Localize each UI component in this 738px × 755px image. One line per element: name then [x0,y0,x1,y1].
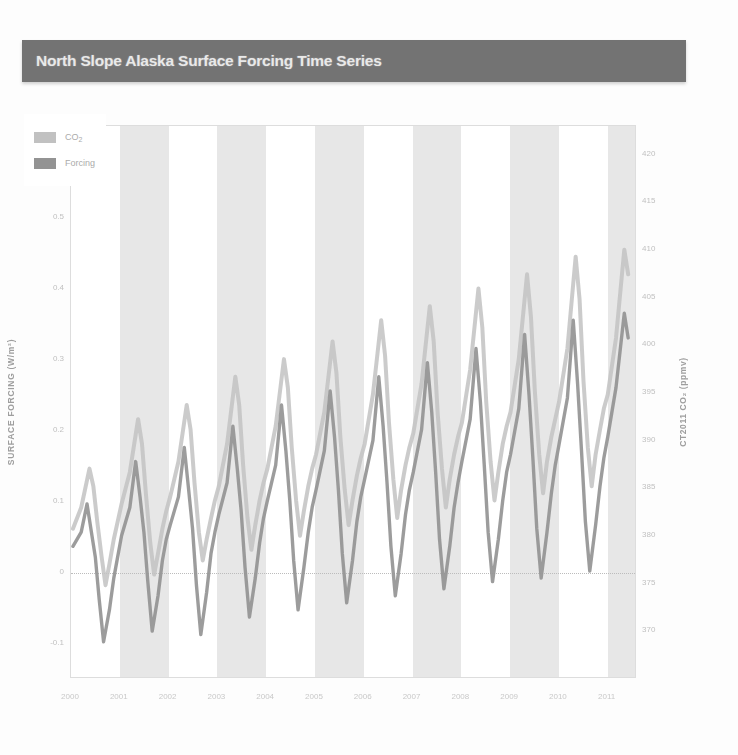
x-tick-label: 2005 [305,692,323,701]
x-tick-label: 2002 [159,692,177,701]
x-tick-label: 2001 [110,692,128,701]
figure-page: North Slope Alaska Surface Forcing Time … [0,0,738,755]
y-tick-label-right: 390 [642,435,655,444]
y-tick-label-left: 0.1 [53,496,64,505]
legend-item-forcing: Forcing [34,150,98,176]
y-tick-label-left: 0.2 [53,425,64,434]
legend-label-co2: CO2 [65,132,82,143]
x-tick-label: 2011 [598,692,615,701]
series-line [73,250,628,586]
x-axis-ticks: 2000200120022003200420052006200720082009… [70,692,636,708]
legend-swatch-forcing [34,158,56,169]
y-tick-label-left: 0 [60,567,64,576]
y-tick-label-right: 405 [642,292,655,301]
legend-label-forcing: Forcing [65,158,95,168]
y-axis-right-ticks: 420415410405400395390385380375370 [642,125,676,678]
x-tick-label: 2010 [549,692,567,701]
series-curves [71,126,635,677]
y-tick-label-right: 385 [642,482,655,491]
y-axis-right-title: CT2011 CO₂ (ppmv) [676,125,690,678]
x-tick-label: 2004 [256,692,274,701]
x-tick-label: 2006 [354,692,372,701]
plot-area [70,125,636,678]
x-tick-label: 2000 [61,692,79,701]
y-tick-label-left: 0.4 [53,283,64,292]
title-banner: North Slope Alaska Surface Forcing Time … [22,40,686,82]
y-tick-label-left: -0.1 [50,638,64,647]
y-tick-label-right: 370 [642,625,655,634]
y-tick-label-right: 395 [642,387,655,396]
y-tick-label-right: 400 [642,339,655,348]
chart-figure: SURFACE FORCING (W/m²) CT2011 CO₂ (ppmv)… [0,96,738,736]
y-tick-label-left: 0.5 [53,212,64,221]
y-tick-label-left: 0.3 [53,354,64,363]
y-axis-left-ticks: 0.60.50.40.30.20.10-0.1 [30,125,64,678]
x-tick-label: 2007 [403,692,421,701]
x-tick-label: 2003 [207,692,225,701]
y-tick-label-right: 420 [642,149,655,158]
legend-swatch-co2 [34,132,56,143]
legend: CO2 Forcing [24,114,106,186]
y-tick-label-right: 380 [642,530,655,539]
y-tick-label-right: 375 [642,578,655,587]
y-tick-label-right: 410 [642,244,655,253]
page-title: North Slope Alaska Surface Forcing Time … [36,52,382,70]
x-tick-label: 2009 [500,692,518,701]
legend-item-co2: CO2 [34,124,98,150]
y-tick-label-right: 415 [642,196,655,205]
x-tick-label: 2008 [451,692,469,701]
y-axis-left-title: SURFACE FORCING (W/m²) [4,125,18,678]
